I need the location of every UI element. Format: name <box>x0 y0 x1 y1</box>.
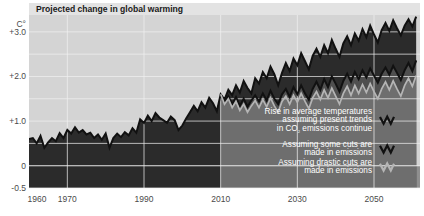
x-tick-label: 2030 <box>288 194 307 204</box>
legend-label: made in emissions <box>304 166 372 175</box>
y-tick-label: -0.5 <box>11 183 26 193</box>
x-tick-label: 1990 <box>135 194 154 204</box>
x-tick-label: 2010 <box>211 194 230 204</box>
x-tick-label: 1970 <box>58 194 77 204</box>
y-tick-label: +2.0 <box>9 71 26 81</box>
global-warming-chart: -0.50+1.0+2.0+3.0 1960197019902010203020… <box>0 0 424 216</box>
y-tick-label: 0 <box>21 161 26 171</box>
legend-label: in CO₂ emissions continue <box>277 124 373 134</box>
page-title: Projected change in global warming <box>36 4 183 14</box>
x-tick-label: 2050 <box>365 194 384 204</box>
y-axis-unit-label: C° <box>16 19 26 29</box>
y-tick-label: +1.0 <box>9 116 26 126</box>
x-tick-label: 1960 <box>28 194 47 204</box>
legend-label: made in emissions <box>304 148 372 157</box>
chart-figure: -0.50+1.0+2.0+3.0 1960197019902010203020… <box>0 0 424 216</box>
